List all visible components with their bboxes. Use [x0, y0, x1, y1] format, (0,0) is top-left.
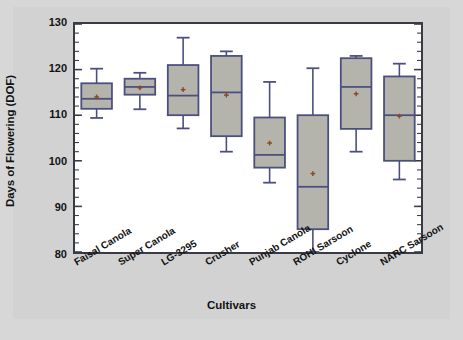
y-axis-title: Days of Flowering (DOF): [10, 0, 32, 25]
figure-panel: Days of Flowering (DOF) 1301201101009080…: [13, 7, 450, 319]
y-axis-tick-labels: 1301201101009080: [35, 22, 67, 254]
y-tick-label: 120: [37, 63, 67, 74]
y-axis-title-text: Days of Flowering (DOF): [4, 75, 16, 207]
x-axis-tick-labels: Faisal CanolaSuper CanolaLG-3295CrusherP…: [13, 254, 450, 304]
box-plot-group: [384, 64, 415, 180]
box-plot-group: [211, 51, 242, 151]
x-axis-title: Cultivars: [13, 299, 450, 311]
box-plot-group: [254, 82, 285, 183]
boxplot-canvas: [75, 24, 421, 252]
box-plot-group: [81, 69, 112, 118]
plot-area: [73, 22, 423, 254]
y-tick-label: 100: [37, 156, 67, 167]
y-tick-label: 90: [37, 202, 67, 213]
y-tick-label: 110: [37, 109, 67, 120]
box-plot-group: [168, 38, 199, 129]
y-tick-label: 130: [37, 17, 67, 28]
box-iqr[interactable]: [384, 76, 415, 160]
box-plot-group: [125, 73, 156, 109]
box-plot-group: [341, 56, 372, 152]
